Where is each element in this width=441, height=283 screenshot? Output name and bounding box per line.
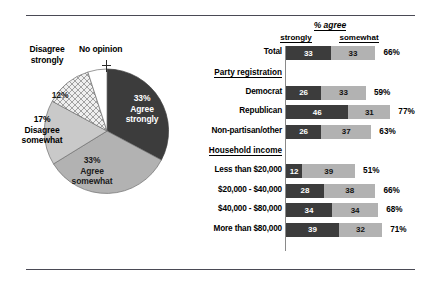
bar-row: Republican463177% bbox=[200, 105, 441, 120]
pie-label-agree-strongly-line2: strongly bbox=[111, 114, 173, 125]
bar-segment-somewhat: 39 bbox=[302, 164, 355, 178]
pie-label-agree-somewhat: 33% Agree somewhat bbox=[55, 155, 129, 187]
no-opinion-leader-line bbox=[106, 60, 107, 72]
bar-row-label: Non-partisan/other bbox=[162, 126, 282, 135]
bar-row-bar: 2633 bbox=[286, 86, 366, 100]
bar-segment-somewhat: 31 bbox=[348, 105, 390, 119]
bar-row-label: Republican bbox=[162, 106, 282, 115]
bar-segment-somewhat: 34 bbox=[332, 203, 378, 217]
bar-segment-strongly: 26 bbox=[286, 86, 321, 100]
bar-row-total: 63% bbox=[379, 127, 395, 136]
pie-label-no-opinion: No opinion bbox=[79, 44, 145, 55]
pie-label-disagree-somewhat-line2: somewhat bbox=[6, 135, 78, 146]
pie-value-agree-somewhat: 33% bbox=[55, 155, 129, 166]
bar-row: Total333366% bbox=[200, 46, 441, 61]
column-header-somewhat: somewhat bbox=[328, 33, 390, 42]
bar-group-header: Party registration bbox=[200, 68, 441, 81]
bar-row: $20,000 - $40,000283866% bbox=[200, 184, 441, 199]
bar-group-header: Household income bbox=[200, 146, 441, 159]
bottom-divider bbox=[26, 269, 415, 270]
bar-row: More than $80,000393271% bbox=[200, 223, 441, 238]
bar-row-total: 51% bbox=[363, 166, 379, 175]
bar-row-total: 66% bbox=[383, 48, 399, 57]
bar-row-bar: 2838 bbox=[286, 184, 375, 198]
pie-value-disagree-strongly: 12% bbox=[42, 90, 78, 101]
bar-segment-somewhat: 33 bbox=[321, 86, 366, 100]
bar-row-label: More than $80,000 bbox=[162, 224, 282, 233]
bar-row-total: 71% bbox=[390, 225, 406, 234]
bar-segment-somewhat: 32 bbox=[339, 223, 382, 237]
bar-row-label: Less than $20,000 bbox=[162, 165, 282, 174]
bar-segment-somewhat: 37 bbox=[321, 125, 371, 139]
bar-group-header-text: Household income bbox=[209, 146, 282, 156]
column-header-somewhat-text: somewhat bbox=[339, 33, 378, 43]
figure-panel: Disagree strongly No opinion 12% 17% Dis… bbox=[0, 0, 441, 283]
pie-label-agree-somewhat-line2: somewhat bbox=[55, 176, 129, 187]
top-divider bbox=[26, 15, 415, 16]
pie-label-disagree-strongly-line1: Disagree bbox=[16, 44, 78, 55]
bar-segment-somewhat: 33 bbox=[331, 46, 376, 60]
column-header-strongly: strongly bbox=[268, 33, 324, 42]
bar-row-bar: 4631 bbox=[286, 105, 390, 119]
pie-value-disagree-somewhat: 17% bbox=[6, 114, 78, 125]
bar-row: Non-partisan/other263763% bbox=[200, 125, 441, 140]
bar-row-bar: 3333 bbox=[286, 46, 375, 60]
bar-row: $40,000 - $80,000343468% bbox=[200, 203, 441, 218]
bar-row-label: $20,000 - $40,000 bbox=[162, 185, 282, 194]
bar-segment-strongly: 34 bbox=[286, 203, 332, 217]
bar-group-header-text: Party registration bbox=[214, 68, 282, 78]
pie-label-disagree-strongly: Disagree strongly bbox=[16, 44, 78, 65]
bar-row-label: $40,000 - $80,000 bbox=[162, 204, 282, 213]
bar-row-total: 59% bbox=[374, 88, 390, 97]
bar-row-bar: 3932 bbox=[286, 223, 382, 237]
bar-row-bar: 3434 bbox=[286, 203, 378, 217]
bar-chart-title: % agree bbox=[270, 20, 390, 30]
bar-segment-strongly: 12 bbox=[286, 164, 302, 178]
pie-label-disagree-somewhat-line1: Disagree bbox=[6, 125, 78, 136]
bar-segment-somewhat: 38 bbox=[324, 184, 375, 198]
bar-group-header-label: Party registration bbox=[162, 68, 282, 77]
bar-row-bar: 2637 bbox=[286, 125, 371, 139]
bar-row: Democrat263359% bbox=[200, 86, 441, 101]
bar-segment-strongly: 26 bbox=[286, 125, 321, 139]
bar-segment-strongly: 28 bbox=[286, 184, 324, 198]
no-opinion-leader-tick bbox=[102, 65, 111, 66]
bar-row-total: 66% bbox=[383, 186, 399, 195]
bar-segment-strongly: 39 bbox=[286, 223, 339, 237]
bar-row-total: 68% bbox=[386, 205, 402, 214]
bar-row-label: Total bbox=[162, 47, 282, 56]
bar-row-bar: 1239 bbox=[286, 164, 355, 178]
pie-label-disagree-strongly-line2: strongly bbox=[16, 55, 78, 66]
bar-row: Less than $20,000123951% bbox=[200, 164, 441, 179]
bar-chart-title-text: % agree bbox=[314, 20, 347, 31]
pie-chart: Disagree strongly No opinion 12% 17% Dis… bbox=[0, 24, 215, 254]
pie-label-agree-somewhat-line1: Agree bbox=[55, 166, 129, 177]
pie-label-disagree-somewhat: 17% Disagree somewhat bbox=[6, 114, 78, 146]
bar-segment-strongly: 46 bbox=[286, 105, 348, 119]
bar-group-header-label: Household income bbox=[162, 146, 282, 155]
bar-row-total: 77% bbox=[398, 107, 414, 116]
bar-segment-strongly: 33 bbox=[286, 46, 331, 60]
bar-row-label: Democrat bbox=[162, 87, 282, 96]
stacked-bar-chart: % agree strongly somewhat Total333366%Pa… bbox=[200, 18, 441, 263]
column-header-strongly-text: strongly bbox=[280, 33, 312, 43]
